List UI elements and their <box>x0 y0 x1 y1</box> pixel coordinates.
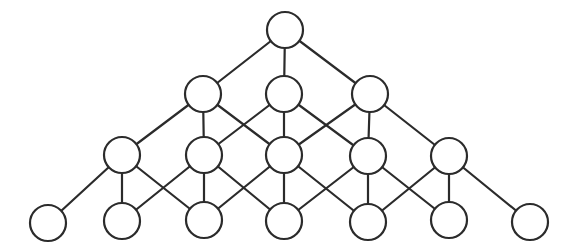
node-n3d <box>350 138 386 174</box>
nodes-layer <box>30 12 548 241</box>
node-n1 <box>267 12 303 48</box>
node-n4d <box>266 203 302 239</box>
node-n4e <box>350 204 386 240</box>
edges-layer <box>48 30 530 223</box>
node-n2a <box>185 76 221 112</box>
node-n4c <box>186 202 222 238</box>
node-n3c <box>266 137 302 173</box>
node-n2b <box>266 76 302 112</box>
node-n3e <box>431 138 467 174</box>
node-n3a <box>104 137 140 173</box>
lattice-diagram <box>0 0 577 251</box>
node-n2c <box>352 76 388 112</box>
node-n4a <box>30 205 66 241</box>
node-n4b <box>104 203 140 239</box>
node-n4g <box>512 204 548 240</box>
node-n4f <box>431 202 467 238</box>
node-n3b <box>186 137 222 173</box>
